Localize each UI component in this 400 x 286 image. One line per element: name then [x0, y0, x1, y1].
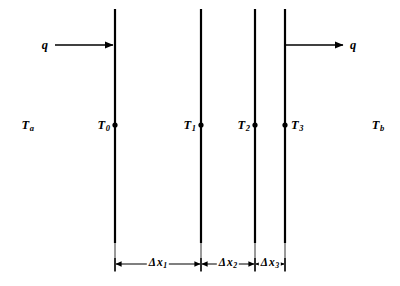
temperature-base-T1: T [184, 118, 192, 132]
heat-flux-outlet-label: q [350, 39, 356, 52]
temperature-sub-T0: 0 [106, 123, 110, 133]
temperature-sub-T3: 3 [299, 123, 303, 133]
heat-conduction-diagram: q q Ta T0 T1 T2 T3 Tb Δx1 Δx2 Δx3 [0, 0, 400, 286]
temperature-label-Ta: Ta [22, 119, 34, 132]
delta-symbol-dx3: Δ [261, 256, 268, 268]
temperature-label-T3: T3 [291, 119, 303, 132]
temperature-label-Tb: Tb [372, 119, 384, 132]
dimension-label-dx1: Δx1 [147, 257, 169, 269]
temperature-base-T2: T [238, 118, 246, 132]
temperature-sub-T1: 1 [192, 123, 196, 133]
heat-flux-inlet-label: q [42, 39, 48, 52]
dimension-sub-dx2: 2 [233, 261, 237, 270]
node-marker-T2 [252, 122, 257, 127]
dimension-label-dx3: Δx3 [259, 257, 281, 269]
delta-symbol-dx1: Δ [149, 256, 156, 268]
temperature-label-T1: T1 [184, 119, 196, 132]
dimension-label-dx2: Δx2 [217, 257, 239, 269]
temperature-sub-Ta: a [30, 123, 34, 133]
node-marker-T3 [282, 122, 287, 127]
temperature-base-Ta: T [22, 118, 30, 132]
dimension-sub-dx3: 3 [275, 261, 279, 270]
diagram-canvas [0, 0, 400, 286]
temperature-sub-T2: 2 [246, 123, 250, 133]
temperature-label-T2: T2 [238, 119, 250, 132]
temperature-base-T3: T [291, 118, 299, 132]
node-marker-T1 [198, 122, 203, 127]
dimension-sub-dx1: 1 [163, 261, 167, 270]
temperature-label-T0: T0 [98, 119, 110, 132]
delta-symbol-dx2: Δ [219, 256, 226, 268]
temperature-sub-Tb: b [380, 123, 384, 133]
node-marker-T0 [112, 122, 117, 127]
temperature-node-markers [112, 122, 287, 127]
temperature-base-Tb: T [372, 118, 380, 132]
temperature-base-T0: T [98, 118, 106, 132]
